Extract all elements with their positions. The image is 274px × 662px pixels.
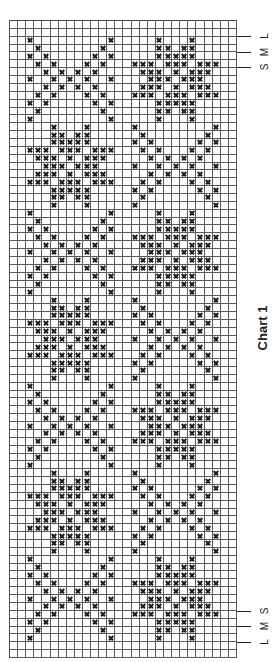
stitch-cell — [10, 84, 18, 92]
stitch-cell — [229, 627, 237, 635]
stitch-x-cell — [34, 516, 42, 524]
stitch-cell — [196, 469, 204, 477]
stitch-x-cell — [42, 257, 50, 265]
stitch-x-cell — [91, 516, 99, 524]
stitch-x-cell — [83, 509, 91, 517]
stitch-cell — [99, 84, 107, 92]
stitch-cell — [164, 469, 172, 477]
stitch-x-cell — [26, 100, 34, 108]
stitch-x-cell — [188, 273, 196, 281]
stitch-cell — [221, 76, 229, 84]
stitch-x-cell — [67, 170, 75, 178]
stitch-cell — [99, 249, 107, 257]
stitch-cell — [229, 343, 237, 351]
stitch-cell — [51, 241, 59, 249]
stitch-x-cell — [148, 68, 156, 76]
stitch-x-cell — [26, 383, 34, 391]
stitch-x-cell — [99, 108, 107, 116]
stitch-x-cell — [91, 320, 99, 328]
stitch-cell — [107, 406, 115, 414]
stitch-cell — [221, 587, 229, 595]
stitch-cell — [229, 414, 237, 422]
stitch-cell — [51, 627, 59, 635]
stitch-cell — [115, 115, 123, 123]
stitch-x-cell — [213, 312, 221, 320]
stitch-cell — [42, 477, 50, 485]
stitch-x-cell — [196, 60, 204, 68]
stitch-cell — [26, 281, 34, 289]
stitch-cell — [91, 383, 99, 391]
stitch-x-cell — [99, 233, 107, 241]
stitch-x-cell — [148, 406, 156, 414]
stitch-x-cell — [83, 367, 91, 375]
stitch-x-cell — [132, 296, 140, 304]
stitch-x-cell — [213, 469, 221, 477]
stitch-cell — [188, 296, 196, 304]
stitch-cell — [213, 241, 221, 249]
stitch-cell — [59, 202, 67, 210]
stitch-cell — [10, 430, 18, 438]
stitch-x-cell — [213, 375, 221, 383]
stitch-x-cell — [148, 603, 156, 611]
stitch-cell — [34, 100, 42, 108]
stitch-cell — [91, 556, 99, 564]
stitch-cell — [18, 501, 26, 509]
stitch-x-cell — [75, 587, 83, 595]
stitch-cell — [205, 281, 213, 289]
stitch-x-cell — [99, 147, 107, 155]
stitch-cell — [172, 564, 180, 572]
stitch-cell — [229, 454, 237, 462]
stitch-cell — [140, 45, 148, 53]
stitch-x-cell — [148, 233, 156, 241]
stitch-x-cell — [132, 202, 140, 210]
stitch-x-cell — [67, 422, 75, 430]
stitch-cell — [34, 485, 42, 493]
stitch-cell — [115, 485, 123, 493]
stitch-cell — [67, 84, 75, 92]
stitch-cell — [213, 398, 221, 406]
stitch-x-cell — [51, 336, 59, 344]
stitch-cell — [156, 477, 164, 485]
stitch-cell — [205, 225, 213, 233]
stitch-cell — [188, 611, 196, 619]
stitch-x-cell — [51, 375, 59, 383]
stitch-cell — [123, 257, 131, 265]
stitch-cell — [59, 265, 67, 273]
stitch-cell — [10, 556, 18, 564]
stitch-cell — [26, 233, 34, 241]
stitch-cell — [205, 619, 213, 627]
stitch-cell — [164, 556, 172, 564]
stitch-cell — [34, 414, 42, 422]
stitch-cell — [18, 336, 26, 344]
stitch-cell — [213, 642, 221, 650]
stitch-cell — [75, 225, 83, 233]
stitch-cell — [51, 430, 59, 438]
stitch-cell — [34, 312, 42, 320]
stitch-cell — [26, 139, 34, 147]
stitch-cell — [91, 37, 99, 45]
stitch-cell — [221, 233, 229, 241]
stitch-cell — [91, 60, 99, 68]
stitch-cell — [10, 351, 18, 359]
stitch-cell — [188, 139, 196, 147]
stitch-cell — [26, 454, 34, 462]
stitch-cell — [75, 281, 83, 289]
stitch-x-cell — [172, 84, 180, 92]
stitch-cell — [132, 587, 140, 595]
stitch-x-cell — [51, 131, 59, 139]
stitch-x-cell — [188, 564, 196, 572]
stitch-cell — [99, 375, 107, 383]
stitch-cell — [26, 108, 34, 116]
stitch-cell — [172, 249, 180, 257]
stitch-cell — [132, 170, 140, 178]
stitch-cell — [140, 571, 148, 579]
stitch-x-cell — [132, 265, 140, 273]
stitch-x-cell — [188, 45, 196, 53]
stitch-cell — [51, 45, 59, 53]
stitch-x-cell — [140, 233, 148, 241]
stitch-cell — [140, 619, 148, 627]
stitch-x-cell — [156, 249, 164, 257]
stitch-cell — [51, 225, 59, 233]
stitch-x-cell — [107, 422, 115, 430]
stitch-x-cell — [164, 328, 172, 336]
